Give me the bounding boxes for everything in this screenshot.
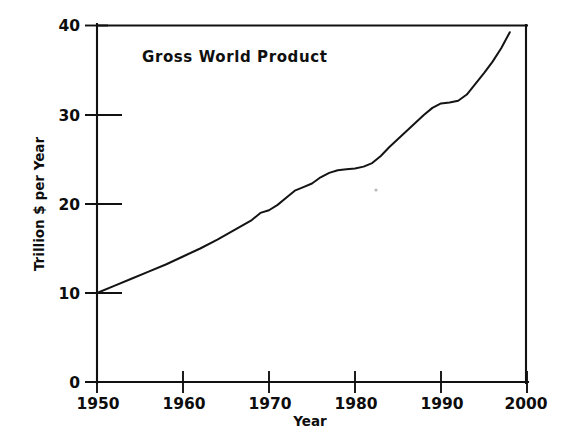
y-tick-label-30: 30: [58, 107, 80, 125]
chart-figure: 40 30 20 10 0 1950 1960 1970 1980 1990 2…: [0, 0, 561, 431]
x-tick-label-1950: 1950: [76, 395, 119, 413]
y-tick-label-20: 20: [58, 196, 80, 214]
series-line-gross-world-product: [97, 32, 510, 293]
x-tick-label-2000: 2000: [504, 395, 547, 413]
y-axis-title: Trillion $ per Year: [31, 137, 47, 272]
x-tick-label-1980: 1980: [334, 395, 377, 413]
x-axis-title: Year: [292, 413, 327, 429]
y-axis-ticks: [85, 26, 122, 383]
y-tick-label-40: 40: [58, 17, 80, 35]
gross-world-product-line-chart: 40 30 20 10 0 1950 1960 1970 1980 1990 2…: [0, 0, 561, 431]
x-tick-labels: 1950 1960 1970 1980 1990 2000: [76, 395, 547, 413]
x-tick-label-1960: 1960: [162, 395, 205, 413]
x-tick-label-1990: 1990: [420, 395, 463, 413]
print-speck: [374, 188, 377, 191]
y-tick-label-10: 10: [58, 285, 80, 303]
axes-spines: [96, 24, 528, 383]
y-tick-label-0: 0: [69, 374, 80, 392]
chart-title: Gross World Product: [142, 48, 327, 66]
y-tick-labels: 40 30 20 10 0: [58, 17, 80, 392]
x-tick-label-1970: 1970: [248, 395, 291, 413]
